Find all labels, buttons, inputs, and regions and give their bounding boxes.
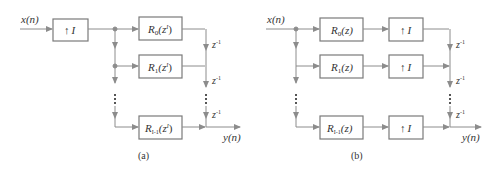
a-filter-label-1: R1(zI) — [147, 61, 172, 75]
a-caption: (a) — [138, 150, 149, 162]
b-upsampler-label-0: ↑I — [400, 24, 413, 36]
diagram-b — [266, 18, 481, 139]
b-input-label: x(n) — [266, 13, 285, 26]
b-output-label: y(n) — [461, 131, 480, 144]
a-filter-label-last: RI-1(zI) — [144, 122, 173, 135]
b-caption: (b) — [351, 150, 363, 162]
a-upsampler-label: ↑I — [64, 24, 77, 36]
a-delay-label-0: z-1 — [211, 39, 221, 50]
b-upsampler-box-1 — [389, 55, 423, 78]
a-delay-label-2: z-1 — [211, 109, 221, 120]
a-output-label: y(n) — [222, 131, 241, 144]
a-ellipsis-right — [205, 94, 207, 104]
up-arrow-icon: ↑ — [400, 61, 406, 73]
b-filter-label-1: R1(z) — [330, 61, 353, 75]
a-delay-label-1: z-1 — [211, 75, 221, 86]
b-filter-label-0: R0(z) — [330, 24, 353, 38]
b-ellipsis-right — [449, 94, 451, 104]
b-filter-label-last: RI-1(z) — [326, 122, 353, 135]
a-filter-label-0: R0(zI) — [147, 23, 172, 37]
polyphase-diagrams: x(n) ↑I R0(zI) R1(zI) RI-1(zI) z-1 z-1 z… — [0, 0, 494, 177]
up-arrow-icon: ↑ — [64, 24, 70, 36]
b-upsampler-box-last — [389, 116, 423, 139]
b-delay-label-2: z-1 — [455, 109, 465, 120]
b-upsampler-label-1: ↑I — [400, 61, 413, 73]
a-upsampler-box — [53, 19, 88, 41]
b-delay-label-1: z-1 — [455, 75, 465, 86]
b-delay-label-0: z-1 — [455, 39, 465, 50]
up-arrow-icon: ↑ — [400, 24, 406, 36]
up-arrow-icon: ↑ — [400, 122, 406, 134]
diagram-a — [20, 17, 240, 139]
a-ellipsis-left — [114, 94, 116, 104]
a-input-label: x(n) — [20, 13, 39, 26]
b-ellipsis-left — [295, 94, 297, 104]
b-upsampler-box-0 — [389, 18, 423, 41]
b-upsampler-label-last: ↑I — [400, 122, 413, 134]
